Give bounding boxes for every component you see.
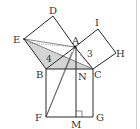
- square-achi: [75, 29, 116, 69]
- side-label-ac: 3: [87, 49, 93, 59]
- geometry-diagram: D E A I H B N C F M G 4 3: [0, 0, 140, 129]
- page-edge-divider: [136, 0, 137, 129]
- label-d: D: [49, 5, 57, 16]
- label-b: B: [36, 69, 43, 80]
- label-c: C: [94, 69, 102, 80]
- label-h: H: [116, 48, 125, 59]
- label-f: F: [35, 112, 42, 123]
- label-m: M: [71, 119, 81, 129]
- point-e-dot: [23, 38, 25, 40]
- side-label-ab: 4: [46, 54, 52, 64]
- label-i: I: [95, 17, 99, 28]
- label-e: E: [13, 34, 20, 45]
- label-a: A: [71, 35, 80, 46]
- label-g: G: [96, 112, 104, 123]
- right-angle-marker: [76, 111, 82, 117]
- label-n: N: [78, 71, 87, 82]
- point-a-dot: [74, 46, 77, 49]
